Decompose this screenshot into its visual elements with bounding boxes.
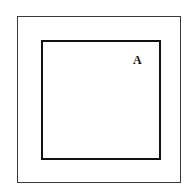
inner-square (41, 40, 161, 160)
region-label-a: A (133, 54, 142, 66)
